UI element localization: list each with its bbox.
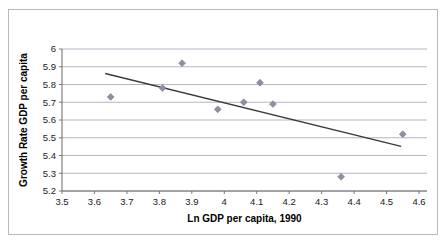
data-point-marker[interactable] xyxy=(338,173,345,180)
data-point-marker[interactable] xyxy=(257,79,264,86)
x-tick-label: 3.8 xyxy=(153,196,166,207)
data-point-marker[interactable] xyxy=(179,60,186,67)
x-tick-label: 4 xyxy=(222,196,227,207)
y-axis-title: Growth Rate GDP per capita xyxy=(18,53,29,187)
x-tick-label: 4.5 xyxy=(380,196,393,207)
x-tick-label: 4.2 xyxy=(283,196,296,207)
x-tick-label: 3.7 xyxy=(120,196,133,207)
y-tick-label: 5.2 xyxy=(43,185,56,196)
x-tick-label: 3.9 xyxy=(185,196,198,207)
x-tick-label: 3.6 xyxy=(88,196,101,207)
y-tick-label: 6 xyxy=(51,43,56,54)
x-axis-title: Ln GDP per capita, 1990 xyxy=(187,213,302,224)
x-tick-label: 4.3 xyxy=(315,196,328,207)
y-tick-label: 5.7 xyxy=(43,97,56,108)
y-tick-label: 5.8 xyxy=(43,79,56,90)
y-tick-label: 5.9 xyxy=(43,61,56,72)
data-point-marker[interactable] xyxy=(240,99,247,106)
x-tick-label: 3.5 xyxy=(55,196,68,207)
data-point-marker[interactable] xyxy=(159,85,166,92)
chart-frame: 5.25.35.45.55.65.75.85.963.53.63.73.83.9… xyxy=(8,9,438,235)
y-tick-label: 5.4 xyxy=(43,150,56,161)
x-tick-label: 4.1 xyxy=(250,196,263,207)
y-tick-label: 5.3 xyxy=(43,168,56,179)
data-point-marker[interactable] xyxy=(270,101,277,108)
data-point-marker[interactable] xyxy=(107,94,114,101)
y-tick-label: 5.5 xyxy=(43,132,56,143)
x-tick-label: 4.6 xyxy=(412,196,425,207)
x-tick-label: 4.4 xyxy=(347,196,360,207)
y-tick-label: 5.6 xyxy=(43,114,56,125)
data-point-marker[interactable] xyxy=(399,131,406,138)
scatter-plot: 5.25.35.45.55.65.75.85.963.53.63.73.83.9… xyxy=(9,10,439,236)
data-point-marker[interactable] xyxy=(214,106,221,113)
